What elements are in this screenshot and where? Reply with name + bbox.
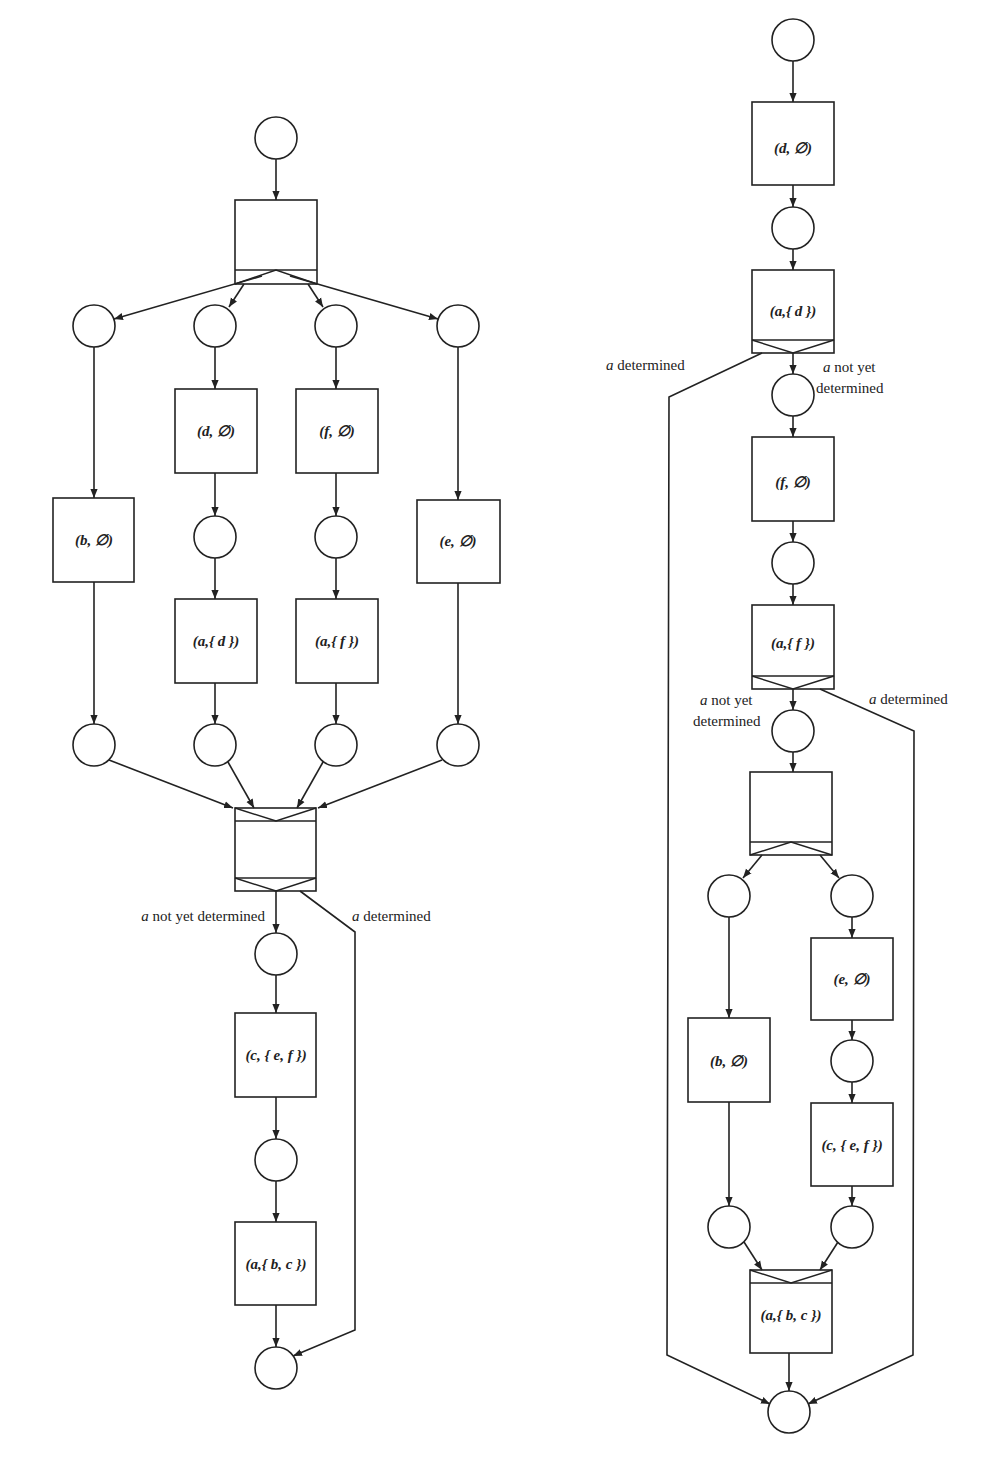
place-b-out [708,1206,750,1248]
transition-a-f: (a,{ f }) [296,599,378,683]
svg-text:(a,{ b, c }): (a,{ b, c }) [761,1307,822,1324]
transition-a-f-xor-split: (a,{ f }) [752,605,834,689]
svg-text:(e, ∅): (e, ∅) [439,533,476,550]
place-ad-out [772,374,814,416]
transition-b: (b, ∅) [688,1018,770,1102]
transition-f: (f, ∅) [296,389,378,473]
place-d-mid [194,516,236,558]
transition-b: (b, ∅) [53,498,134,582]
place-f-in [315,305,357,347]
label-a-not-yet-determined: a not yet determined [141,908,265,924]
place-d-in [194,305,236,347]
place-d-out [194,724,236,766]
right-net: (d, ∅) (a,{ d }) (f, ∅) (a,{ f }) (e, ∅) [606,19,948,1433]
transition-d: (d, ∅) [175,389,257,473]
transition-and-join-xor-split [235,808,316,891]
place-c-in [255,933,297,975]
svg-text:(a,{ d }): (a,{ d }) [770,303,817,320]
transition-and-split [750,772,832,855]
label-ad-determined: determined [816,380,884,396]
svg-text:(a,{ b, c }): (a,{ b, c }) [246,1256,307,1273]
transition-a-bc: (a,{ b, c }) [235,1222,316,1305]
transition-c: (c, { e, f }) [235,1013,316,1097]
svg-text:(a,{ f }): (a,{ f }) [771,635,815,652]
svg-text:(a,{ d }): (a,{ d }) [193,633,240,650]
place-b-in [708,875,750,917]
place-e-out [831,1040,873,1082]
place-start [772,19,814,61]
place-af-out [772,710,814,752]
place-b-in [73,305,115,347]
place-e-in [831,875,873,917]
place-b-out [73,724,115,766]
svg-text:(f, ∅): (f, ∅) [775,474,811,491]
transition-and-split [235,200,317,284]
place-c-out [255,1139,297,1181]
transition-c: (c, { e, f }) [811,1103,893,1186]
svg-text:(e, ∅): (e, ∅) [833,971,870,988]
place-e-out [437,724,479,766]
svg-text:(c, { e, f }): (c, { e, f }) [245,1047,306,1064]
label-a-determined: a determined [352,908,431,924]
transition-e: (e, ∅) [417,500,500,583]
svg-text:(d, ∅): (d, ∅) [774,140,812,157]
transition-e: (e, ∅) [811,938,893,1020]
label-af-determined: determined [693,713,761,729]
svg-text:(b, ∅): (b, ∅) [710,1053,748,1070]
place-d-out [772,207,814,249]
place-start [255,117,297,159]
transition-a-bc-and-join: (a,{ b, c }) [750,1270,832,1353]
svg-text:(b, ∅): (b, ∅) [75,532,113,549]
place-f-mid [315,516,357,558]
svg-text:(a,{ f }): (a,{ f }) [315,633,359,650]
svg-text:(f, ∅): (f, ∅) [319,423,355,440]
petri-net-diagrams: (d, ∅) (f, ∅) (b, ∅) (e, ∅) (a,{ d }) (a… [0,0,994,1472]
place-f-out [315,724,357,766]
label-af-a-determined: a determined [869,691,948,707]
transition-d: (d, ∅) [752,102,834,185]
transition-f: (f, ∅) [752,437,834,521]
place-end [255,1347,297,1389]
place-end [768,1391,810,1433]
svg-text:(c, { e, f }): (c, { e, f }) [821,1137,882,1154]
place-f-out [772,542,814,584]
label-af-a-not-yet: a not yet [700,692,753,708]
transition-a-d-xor-split: (a,{ d }) [752,270,834,353]
place-e-in [437,305,479,347]
transition-a-d: (a,{ d }) [175,599,257,683]
left-net: (d, ∅) (f, ∅) (b, ∅) (e, ∅) (a,{ d }) (a… [53,117,500,1389]
svg-text:(d, ∅): (d, ∅) [197,423,235,440]
label-ad-a-not-yet: a not yet [823,359,876,375]
label-ad-a-determined: a determined [606,357,685,373]
